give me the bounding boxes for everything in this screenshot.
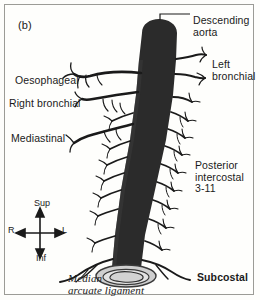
panel-letter: (b) [18,20,32,32]
compass-label-right: R [8,225,15,235]
compass-label-inferior: Inf [36,253,46,263]
orientation-compass: Sup Inf R L [8,198,72,264]
label-oesophageal: Oesophageal [15,75,79,87]
compass-label-left: L [62,225,67,235]
label-subcostal: Subcostal [197,272,248,284]
anatomy-figure-panel-b: (b) Oesophageal Right bronchial Mediasti… [0,0,260,300]
label-left-bronchial: Left bronchial [212,59,256,82]
label-mediastinal: Mediastinal [11,133,65,145]
compass-label-superior: Sup [34,198,50,208]
label-descending-aorta: Descending aorta [193,15,249,38]
label-median-arcuate-ligament: Median arcuate ligament [68,273,144,296]
label-posterior-intercostal: Posterior intercostal 3-11 [195,160,244,195]
label-right-bronchial: Right bronchial [9,98,81,110]
